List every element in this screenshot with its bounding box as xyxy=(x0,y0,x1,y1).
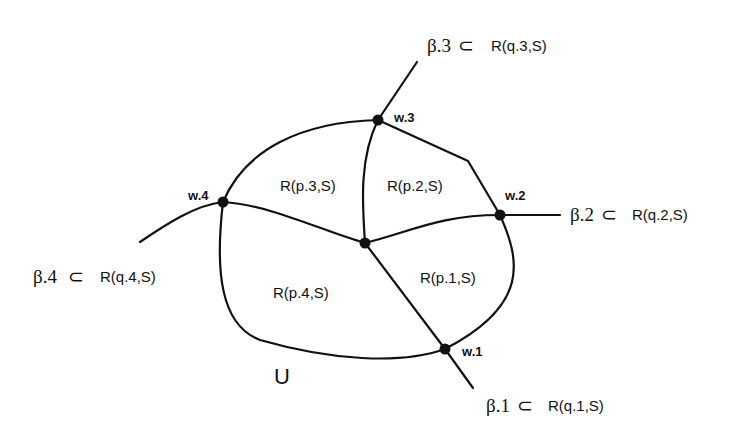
ray-beta-4 xyxy=(140,202,223,242)
beta-2-target: R(q.2,S) xyxy=(632,206,688,223)
beta-2-symbol: β.2 xyxy=(570,204,594,225)
boundary-arc-w1-w4 xyxy=(220,202,445,359)
edge-center-w3 xyxy=(363,120,378,243)
label-w3: w.3 xyxy=(393,110,414,125)
beta-1-target: R(q.1,S) xyxy=(548,397,604,414)
beta-3-symbol: β.3 xyxy=(427,35,451,56)
vertex-w2 xyxy=(495,210,506,221)
rays xyxy=(140,62,560,388)
voronoi-region-diagram: w.3 w.2 w.1 w.4 R(p.3,S) R(p.2,S) R(p.1,… xyxy=(0,0,737,439)
beta-1-symbol: β.1 xyxy=(486,395,510,416)
vertex-w1 xyxy=(440,344,451,355)
beta-4-target: R(q.4,S) xyxy=(100,268,156,285)
subset-4-symbol: ⊂ xyxy=(68,266,84,287)
vertex-w3 xyxy=(373,115,384,126)
region-label-p1: R(p.1,S) xyxy=(420,269,476,286)
domain-label-u: U xyxy=(274,364,290,389)
vertices xyxy=(218,115,506,355)
ray-label-beta-3: β.3 ⊂ R(q.3,S) xyxy=(427,35,547,56)
subset-1-symbol: ⊂ xyxy=(517,395,533,416)
subset-2-symbol: ⊂ xyxy=(601,204,617,225)
vertex-center xyxy=(360,238,371,249)
vertex-w4 xyxy=(218,197,229,208)
boundary-arc-w3-w2 xyxy=(378,120,500,215)
beta-3-target: R(q.3,S) xyxy=(491,37,547,54)
ray-label-beta-4: β.4 ⊂ R(q.4,S) xyxy=(33,266,156,287)
region-label-p4: R(p.4,S) xyxy=(273,284,329,301)
label-w1: w.1 xyxy=(461,344,482,359)
region-label-p2: R(p.2,S) xyxy=(387,177,443,194)
edge-center-w4 xyxy=(223,202,365,243)
subset-3-symbol: ⊂ xyxy=(458,35,474,56)
label-w2: w.2 xyxy=(504,188,525,203)
region-label-p3: R(p.3,S) xyxy=(280,177,336,194)
interior-edges xyxy=(223,120,500,349)
beta-4-symbol: β.4 xyxy=(33,266,57,287)
edge-center-w2 xyxy=(365,215,500,243)
edge-center-w1 xyxy=(365,243,445,349)
label-w4: w.4 xyxy=(187,188,209,203)
ray-label-beta-1: β.1 ⊂ R(q.1,S) xyxy=(486,395,604,416)
ray-label-beta-2: β.2 ⊂ R(q.2,S) xyxy=(570,204,688,225)
